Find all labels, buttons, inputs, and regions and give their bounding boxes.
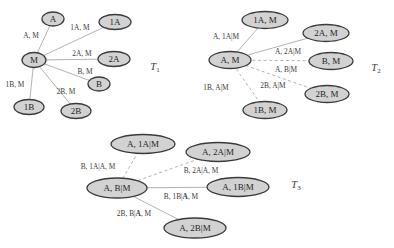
tree-T2-edge-label-AM-2AM: A, 2A|M xyxy=(275,47,302,56)
tree-T2-node-BM-label: B, M xyxy=(322,56,341,66)
tree-T3-node-A1BM-label: A, 1B|M xyxy=(222,182,253,192)
tree-T1: A, M1A, M2A, MB, M1B, M2B, MMA1A2AB1B2BT… xyxy=(6,12,161,119)
tree-T2-title: T2 xyxy=(371,62,381,76)
diagram-canvas: A, M1A, M2A, MB, M1B, M2B, MMA1A2AB1B2BT… xyxy=(0,0,394,248)
tree-T1-node-M-label: M xyxy=(30,55,38,65)
tree-T3-node-ABM-label: A, B|M xyxy=(104,183,131,193)
tree-T2-node-1AM-label: 1A, M xyxy=(253,15,277,25)
tree-T3: B, 1A|A, MB, 2A|A, MB, 1B|A, M2B, B|A, M… xyxy=(81,135,302,239)
tree-T2-node-2AM-label: 2A, M xyxy=(314,28,338,38)
tree-T1-edge-label-M-2B: 2B, M xyxy=(57,87,76,96)
tree-T3-edge-label-ABM-A2AM: B, 2A|A, M xyxy=(184,166,219,175)
tree-T3-title: T3 xyxy=(291,179,301,193)
tree-T1-node-A-label: A xyxy=(50,14,57,24)
tree-T2-edge-label-AM-1AM: A, 1A|M xyxy=(213,32,240,41)
tree-T2-node-AM-label: A, M xyxy=(220,55,239,65)
tree-T2-edge-label-AM-BM: A, B|M xyxy=(275,65,297,74)
tree-T2-node-1BM-label: 1B, M xyxy=(253,105,276,115)
tree-T1-edge-label-M-1B: 1B, M xyxy=(6,80,25,89)
tree-T2-node-2BM-label: 2B, M xyxy=(315,89,338,99)
tree-T1-edge-label-M-1A: 1A, M xyxy=(70,23,90,32)
tree-T1-edge-label-M-2A: 2A, M xyxy=(72,49,92,58)
tree-T1-node-1B-label: 1B xyxy=(24,102,35,112)
tree-T3-edge-label-ABM-A1AM: B, 1A|A, M xyxy=(81,162,116,171)
tree-T1-node-2A-label: 2A xyxy=(109,54,121,64)
tree-T3-edge-label-ABM-A1BM: B, 1B|A, M xyxy=(164,192,199,201)
tree-T3-node-A2BM-label: A, 2B|M xyxy=(179,223,210,233)
tree-T2-edge-label-AM-1BM: 1B, A|M xyxy=(203,83,229,92)
tree-T2-edge-label-AM-2BM: 2B, A|M xyxy=(260,81,286,90)
tree-T1-node-2B-label: 2B xyxy=(71,106,82,116)
figure-junction-trees: A, M1A, M2A, MB, M1B, M2B, MMA1A2AB1B2BT… xyxy=(0,0,394,248)
tree-T1-title: T1 xyxy=(150,61,160,75)
tree-T3-node-A1AM-label: A, 1A|M xyxy=(127,139,159,149)
tree-T1-edge-label-M-A: A, M xyxy=(23,31,39,40)
tree-T1-node-B-label: B xyxy=(96,79,102,89)
tree-T1-edge-label-M-B: B, M xyxy=(77,67,93,76)
tree-T1-node-1A-label: 1A xyxy=(110,17,122,27)
tree-T3-node-A2AM-label: A, 2A|M xyxy=(202,147,234,157)
tree-T2: A, 1A|MA, 2A|MA, B|M1B, A|M2B, A|MA, M1A… xyxy=(203,12,381,119)
tree-T3-edge-label-ABM-A2BM: 2B, B|A, M xyxy=(117,209,152,218)
